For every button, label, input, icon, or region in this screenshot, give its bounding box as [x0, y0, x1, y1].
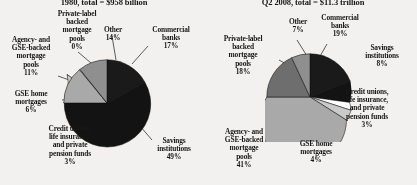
- label-credit-unions-q2-2008: Credit unions, life insurance, and priva…: [333, 88, 401, 129]
- label-commercial-banks-1980: Commercial banks 17%: [140, 26, 202, 51]
- label-commercial-banks-q2-2008: Commercial banks 19%: [309, 14, 371, 39]
- label-agency-gse-pools-q2-2008: Agency- and GSE-backed mortgage pools 41…: [211, 128, 277, 169]
- pie-chart-panel-1980: 1980, total = $958 billion: [0, 0, 208, 185]
- label-agency-gse-pools-1980: Agency- and GSE-backed mortgage pools 11…: [0, 36, 62, 77]
- label-gse-home-mortgages-1980: GSE home mortgages 6%: [2, 90, 60, 115]
- chart-title-1980: 1980, total = $958 billion: [0, 0, 208, 7]
- label-other-1980: Other 14%: [96, 26, 130, 42]
- label-credit-unions-1980: Credit unions, life insurance, and priva…: [36, 125, 104, 166]
- label-private-label-pools-q2-2008: Private-label backed mortgage pools 18%: [211, 35, 275, 76]
- label-savings-institutions-1980: Savings institutions 49%: [146, 137, 202, 162]
- label-gse-home-mortgages-q2-2008: GSE home mortgages 4%: [287, 140, 345, 165]
- label-savings-institutions-q2-2008: Savings institutions 8%: [353, 44, 411, 69]
- chart-title-q2-2008: Q2 2008, total = $11.3 trillion: [209, 0, 417, 7]
- pie-chart-panel-q2-2008: Q2 2008, total = $11.3 trillion: [209, 0, 417, 185]
